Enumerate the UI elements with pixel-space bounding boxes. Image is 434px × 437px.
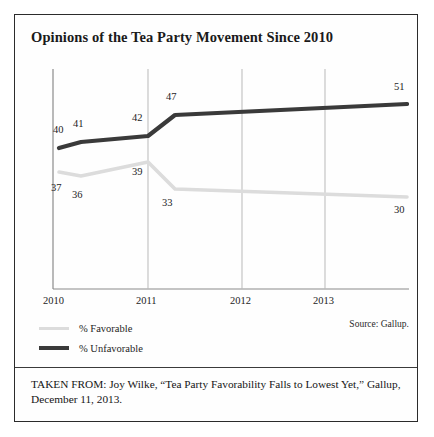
chart-legend: % Favorable % Unfavorable Source: Gallup… xyxy=(39,318,409,362)
legend-label-unfavorable: % Unfavorable xyxy=(79,343,143,354)
page-title: Opinions of the Tea Party Movement Since… xyxy=(31,29,333,46)
source-note: Source: Gallup. xyxy=(349,319,409,329)
legend-swatch-favorable-icon xyxy=(39,327,69,330)
data-label-unfavorable-2010b: 41 xyxy=(73,118,84,129)
x-tick-2012: 2012 xyxy=(230,295,251,306)
data-label-favorable-2011b: 33 xyxy=(162,197,173,208)
x-tick-2010: 2010 xyxy=(43,295,64,306)
footer-citation: TAKEN FROM: Joy Wilke, “Tea Party Favora… xyxy=(31,377,403,407)
data-label-favorable-2010b: 36 xyxy=(72,189,83,200)
data-label-unfavorable-2013: 51 xyxy=(394,81,405,92)
figure-frame: Opinions of the Tea Party Movement Since… xyxy=(14,14,418,422)
data-label-favorable-2013: 30 xyxy=(394,204,405,215)
legend-label-favorable: % Favorable xyxy=(79,323,132,334)
footer-divider xyxy=(15,367,417,368)
data-label-favorable-2011: 39 xyxy=(132,166,143,177)
x-tick-2013: 2013 xyxy=(313,295,334,306)
legend-swatch-unfavorable-icon xyxy=(39,346,69,350)
chart-svg xyxy=(25,65,409,305)
data-label-favorable-2010: 37 xyxy=(51,182,62,193)
legend-item-unfavorable: % Unfavorable xyxy=(39,338,409,358)
data-label-unfavorable-2010: 40 xyxy=(53,124,64,135)
line-chart-plot: 40 41 42 47 51 37 36 39 33 30 2010 2011 … xyxy=(25,65,409,305)
data-label-unfavorable-2011: 42 xyxy=(132,112,143,123)
data-label-unfavorable-2011b: 47 xyxy=(166,91,177,102)
series-line-favorable xyxy=(59,162,407,197)
x-tick-2011: 2011 xyxy=(136,295,157,306)
series-line-unfavorable xyxy=(59,104,407,148)
